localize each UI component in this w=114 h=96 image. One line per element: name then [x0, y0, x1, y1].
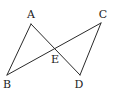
label-a: A [26, 8, 36, 21]
label-d: D [75, 78, 84, 91]
label-e: E [51, 53, 59, 66]
label-b: B [3, 78, 11, 91]
segment-cd [80, 23, 101, 75]
segment-ab [7, 24, 31, 75]
diagram-canvas: A B C D E [0, 0, 114, 96]
geometry-diagram: A B C D E [0, 0, 114, 96]
segment-bc [7, 23, 101, 75]
segment-ad [31, 24, 80, 75]
label-c: C [99, 8, 107, 21]
